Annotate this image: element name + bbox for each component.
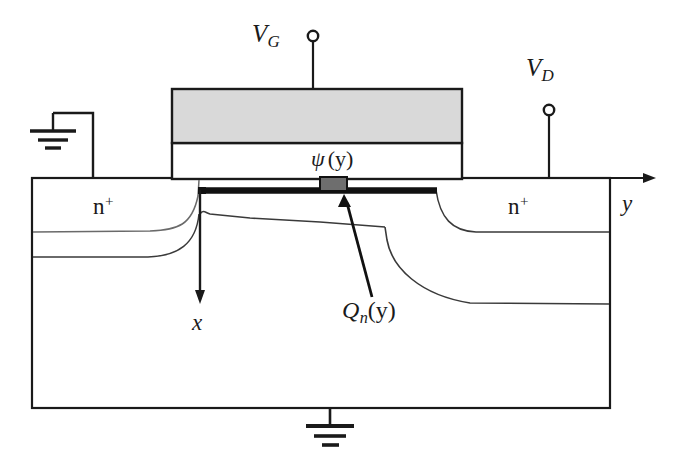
mosfet-cross-section-figure: VG VD ψ(y) n+ n+ y x Qn(y): [0, 0, 673, 466]
gate-voltage-label: VG: [252, 21, 280, 50]
gate-electrode: [172, 89, 462, 143]
gate-terminal-node[interactable]: [308, 31, 318, 41]
y-axis-arrow: [610, 173, 656, 183]
source-region-symbol: n: [93, 194, 105, 219]
body-ground-icon: [306, 408, 354, 445]
mosfet-diagram-canvas: [0, 0, 673, 466]
drain-voltage-label: VD: [526, 55, 554, 84]
inversion-charge-subscript: n: [359, 308, 367, 327]
drain-voltage-symbol: V: [526, 54, 541, 81]
source-region-label: n+: [93, 193, 114, 218]
inversion-charge-label: Qn(y): [342, 298, 396, 326]
gate-voltage-subscript: G: [267, 32, 280, 51]
drain-region-label: n+: [508, 193, 529, 218]
gate-voltage-symbol: V: [252, 20, 267, 47]
surface-potential-label: ψ(y): [311, 148, 353, 170]
drain-region-superscript: +: [520, 192, 529, 209]
source-lead-wire: [53, 113, 93, 178]
y-axis-label: y: [622, 192, 632, 215]
drain-voltage-subscript: D: [541, 66, 554, 85]
drain-region-symbol: n: [508, 194, 520, 219]
source-ground-icon: [30, 113, 76, 148]
x-axis-label: x: [192, 311, 202, 334]
inversion-charge-argument: (y): [368, 297, 396, 323]
surface-potential-element: [320, 177, 347, 191]
drain-terminal-node[interactable]: [544, 105, 554, 115]
surface-potential-argument: (y): [328, 146, 354, 171]
inversion-charge-symbol: Q: [342, 297, 359, 323]
source-region-superscript: +: [105, 192, 114, 209]
surface-potential-symbol: ψ: [311, 146, 325, 171]
